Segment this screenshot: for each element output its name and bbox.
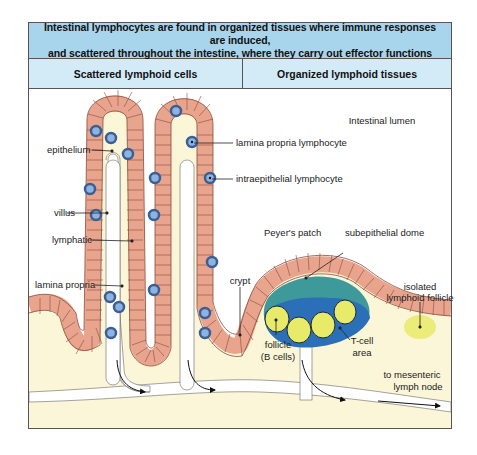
label-lymph-node: lymph node — [393, 381, 442, 392]
label-to-mesenteric: to mesenteric — [383, 369, 440, 380]
label-villus: villus — [54, 207, 75, 218]
label-area: area — [352, 347, 372, 358]
label-lamina-propria-lymphocyte: lamina propria lymphocyte — [236, 137, 347, 148]
label-b-cells: (B cells) — [261, 351, 295, 362]
label-follicle: follicle — [265, 339, 291, 350]
label-subepithelial-dome: subepithelial dome — [345, 227, 424, 238]
label-isolated: isolated — [404, 281, 437, 292]
label-lymphatic: lymphatic — [52, 234, 92, 245]
label-lamina-propria: lamina propria — [35, 279, 96, 290]
label-crypt: crypt — [230, 275, 251, 286]
label-lymphoid-follicle: lymphoid follicle — [386, 292, 453, 303]
label-intestinal-lumen: Intestinal lumen — [349, 115, 416, 126]
label-peyers-patch: Peyer's patch — [264, 227, 321, 238]
intestine-illustration: Intestinal lumen epithelium villus lymph… — [0, 0, 477, 455]
label-epithelium: epithelium — [47, 144, 90, 155]
label-t-cell: T-cell — [351, 335, 374, 346]
label-intraepithelial-lymphocyte: intraepithelial lymphocyte — [236, 173, 343, 184]
